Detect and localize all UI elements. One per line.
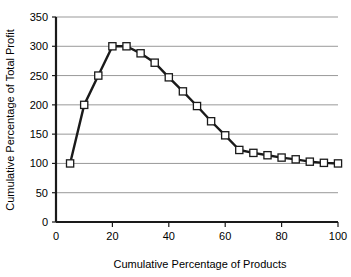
data-point-marker [81,101,88,108]
x-tick-label: 60 [219,230,231,242]
x-tick-labels: 020406080100 [53,230,347,242]
x-tick-label: 80 [275,230,287,242]
y-tick-label: 300 [30,40,48,52]
data-point-marker [278,154,285,161]
data-point-marker [67,160,74,167]
y-tick-label: 0 [42,216,48,228]
data-point-marker [179,88,186,95]
y-tick-label: 100 [30,157,48,169]
y-tick-labels: 050100150200250300350 [30,11,48,228]
y-tick-label: 200 [30,99,48,111]
data-point-marker [222,132,229,139]
y-axis [52,17,56,222]
data-point-marker [151,59,158,66]
x-tick-label: 100 [329,230,347,242]
y-tick-label: 150 [30,128,48,140]
data-point-marker [236,146,243,153]
y-tick-label: 50 [36,187,48,199]
data-point-marker [165,74,172,81]
y-tick-label: 250 [30,70,48,82]
x-tick-label: 0 [53,230,59,242]
data-point-marker [306,158,313,165]
y-axis-label: Cumulative Percentage of Total Profit [4,29,16,210]
x-axis-label: Cumulative Percentage of Products [113,258,287,270]
chart-container: 050100150200250300350 020406080100 Cumul… [0,0,351,277]
data-point-marker [137,50,144,57]
x-tick-label: 40 [163,230,175,242]
data-point-marker [109,43,116,50]
data-point-marker [334,160,341,167]
x-axis [56,222,338,227]
x-tick-label: 20 [106,230,118,242]
y-tick-label: 350 [30,11,48,23]
data-point-marker [208,118,215,125]
data-point-marker [292,156,299,163]
data-point-marker [320,159,327,166]
data-point-marker [250,149,257,156]
data-point-marker [264,152,271,159]
data-point-marker [95,72,102,79]
profit-curve-chart: 050100150200250300350 020406080100 Cumul… [0,0,351,277]
data-point-marker [193,102,200,109]
data-point-marker [123,43,130,50]
